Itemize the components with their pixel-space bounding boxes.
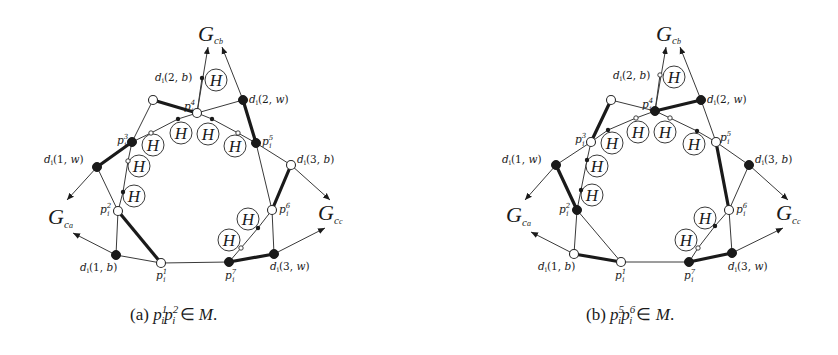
label-d2b: di(2, b) — [613, 69, 650, 83]
node-top — [149, 96, 158, 105]
h-gadget-label: H — [209, 71, 224, 90]
node-p3 — [587, 138, 596, 147]
edge-d3w-to-gcc — [732, 228, 783, 253]
node-p1 — [157, 259, 166, 268]
edge — [272, 210, 274, 254]
label-g-ca-sub: ca — [522, 216, 531, 228]
panel-b-edges — [525, 47, 788, 262]
panel-b: H H H H H H H H H — [502, 21, 801, 326]
h-gadget-label: H — [585, 186, 600, 205]
node-p1 — [617, 258, 626, 267]
h-gadget-label: H — [605, 134, 620, 153]
label-p2: p2i — [100, 202, 112, 218]
label-g-ca: G — [48, 204, 64, 229]
node-d2w — [697, 96, 706, 105]
h-gadget-label: H — [241, 210, 256, 229]
label-p1: p1i — [615, 268, 626, 284]
node-p4 — [651, 107, 660, 116]
label-p7: p7i — [225, 268, 237, 284]
edge — [256, 143, 272, 210]
node-d3b — [287, 161, 296, 170]
label-d1b: di(1, b) — [538, 260, 575, 274]
attachment-dot — [121, 190, 125, 194]
edge — [197, 100, 243, 113]
label-d3w: di(3, w) — [270, 260, 310, 274]
label-d1w: di(1, w) — [44, 153, 84, 167]
node-d3b — [745, 161, 754, 170]
label-g-cc: G — [776, 200, 792, 225]
edge-d3w-to-gcc — [274, 228, 325, 254]
label-p1: p1i — [156, 268, 167, 284]
node-p4 — [193, 109, 202, 118]
node-p2 — [114, 207, 123, 216]
attachment-dot — [585, 158, 589, 162]
caption-b: (b) p5ip6i ∈ M. — [586, 303, 674, 326]
node-p3 — [128, 138, 137, 147]
node-d3w — [270, 250, 279, 259]
edge — [161, 262, 229, 263]
edge — [116, 211, 118, 255]
panel-a-edges — [67, 47, 330, 263]
label-g-cb: G — [198, 21, 214, 46]
panel-b-h-gadgets: H H H H H H H H H — [581, 66, 716, 251]
label-d3w: di(3, w) — [728, 260, 768, 274]
edge — [197, 78, 202, 113]
label-g-cb-sub: cb — [214, 34, 223, 46]
h-gadget-label: H — [222, 231, 237, 250]
matching-edge — [118, 211, 161, 263]
caption-a: (a) p1ip2i ∈ M. — [130, 303, 217, 326]
edge-d3b-to-gcc — [749, 165, 788, 200]
edge-d1b-to-gca — [531, 232, 574, 254]
label-d2w: di(2, w) — [249, 93, 289, 107]
h-gadget-label: H — [679, 231, 694, 250]
label-g-cc: G — [318, 200, 334, 225]
panel-a-matching-edges — [97, 100, 291, 263]
attachment-dot — [200, 76, 204, 80]
h-gadget-label: H — [698, 209, 713, 228]
node-d1w — [93, 163, 102, 172]
attachment-dot — [658, 73, 662, 77]
node-d1w — [552, 161, 561, 170]
label-g-cb: G — [656, 21, 672, 46]
label-g-cc-sub: cc — [334, 214, 343, 226]
label-g-ca: G — [506, 202, 522, 227]
matching-edge — [229, 254, 274, 262]
h-gadget-label: H — [146, 136, 161, 155]
label-p2: p2i — [559, 202, 571, 218]
node-top — [607, 96, 616, 105]
h-gadget-label: H — [228, 137, 243, 156]
matching-edge — [689, 253, 732, 262]
h-gadget-label: H — [174, 124, 189, 143]
node-d1b — [112, 251, 121, 260]
label-d1w: di(1, w) — [502, 153, 542, 167]
edge-d3b-to-gcc — [291, 165, 330, 200]
h-gadget-label: H — [127, 187, 142, 206]
label-p6: p6i — [736, 202, 748, 218]
h-gadget-label: H — [687, 135, 702, 154]
node-p7 — [685, 258, 694, 267]
attachment-dot — [176, 117, 180, 121]
edge — [241, 228, 258, 248]
node-p6 — [268, 206, 277, 215]
node-d2w — [239, 96, 248, 105]
attachment-dot — [634, 116, 638, 120]
attachment-dot — [256, 226, 260, 230]
h-gadget-label: H — [201, 125, 216, 144]
label-d1b: di(1, b) — [80, 261, 117, 275]
attachment-dot — [713, 224, 717, 228]
h-gadget-label: H — [590, 157, 605, 176]
node-d3w — [728, 249, 737, 258]
node-p6 — [725, 206, 734, 215]
panel-a-h-gadgets: H H H H H H H H H — [123, 69, 259, 251]
attachment-dot — [149, 131, 153, 135]
edge-d1b-to-gca — [73, 233, 116, 255]
label-g-cb-sub: cb — [672, 34, 681, 46]
matching-edge — [655, 100, 701, 111]
attachment-dot — [695, 129, 699, 133]
panel-a: H H H H H H H H H — [44, 21, 343, 326]
node-d1b — [570, 250, 579, 259]
h-gadget-label: H — [132, 157, 147, 176]
h-gadget-label: H — [658, 123, 673, 142]
attachment-dot — [696, 246, 700, 250]
attachment-dot — [210, 117, 214, 121]
